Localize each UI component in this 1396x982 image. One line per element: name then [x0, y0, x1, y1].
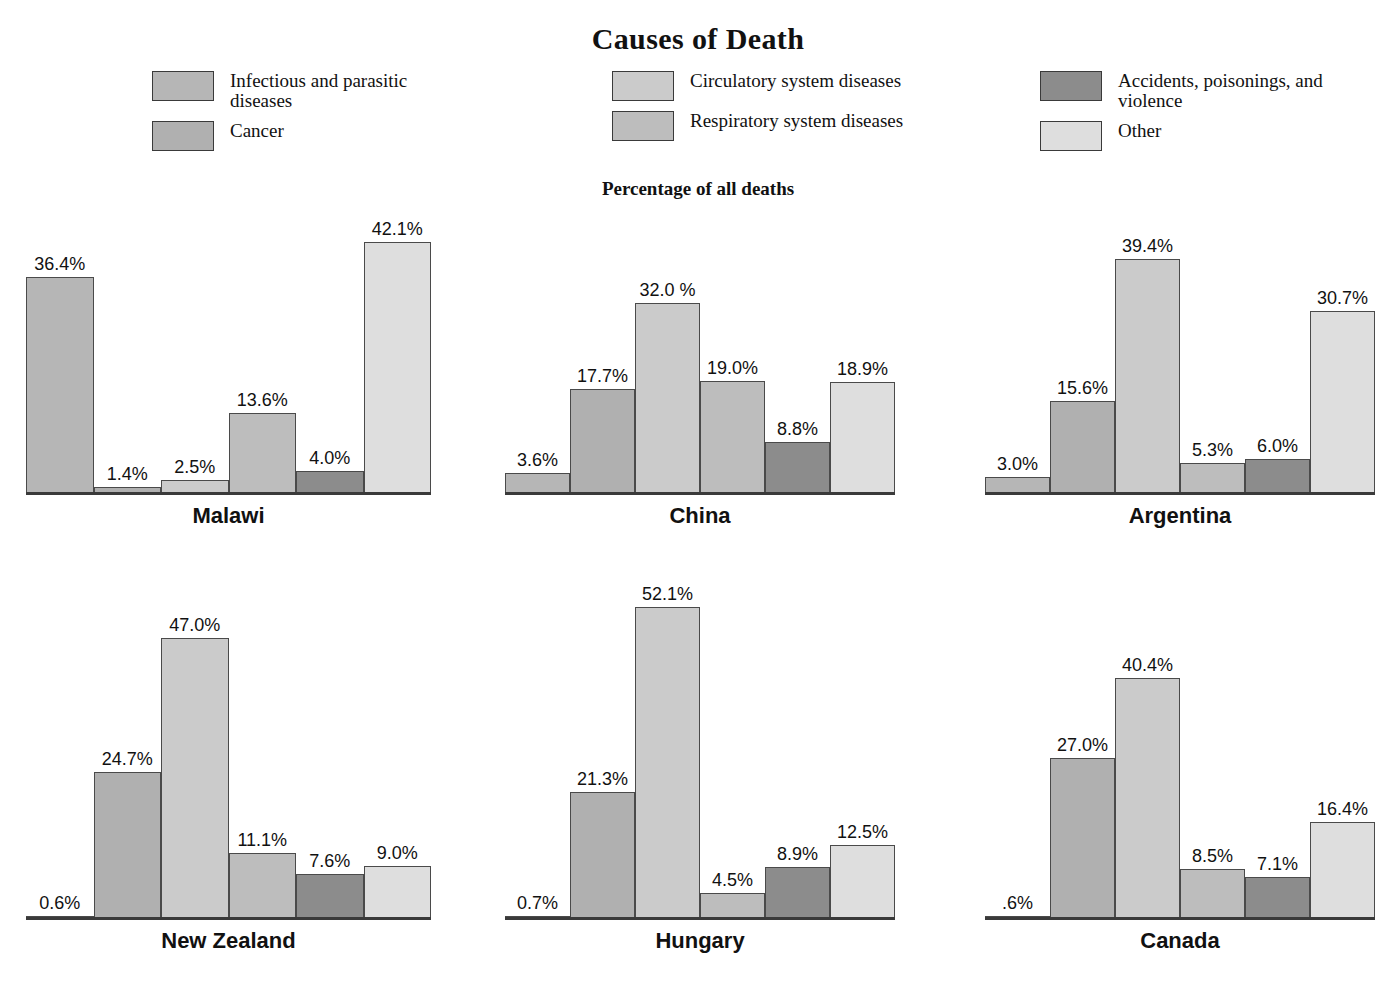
bar[interactable]	[1115, 678, 1180, 920]
bar[interactable]	[1050, 758, 1115, 920]
bar-slot: 36.4%	[26, 165, 94, 495]
bar-slot: 8.9%	[765, 590, 830, 920]
chart-panel-malawi: 36.4%1.4%2.5%13.6%4.0%42.1%Malawi	[26, 165, 431, 529]
bar-slot: 7.1%	[1245, 590, 1310, 920]
bar-slot: 1.4%	[94, 165, 162, 495]
bar[interactable]	[1050, 401, 1115, 495]
legend: Infectious and parasitic diseasesCancerC…	[0, 70, 1396, 165]
bar-value-label: 4.5%	[712, 871, 753, 890]
legend-swatch-icon	[152, 121, 214, 151]
bar-value-label: .6%	[1002, 894, 1033, 913]
bar[interactable]	[1115, 259, 1180, 495]
bar-slot: 42.1%	[364, 165, 432, 495]
legend-item[interactable]: Other	[1040, 120, 1360, 151]
bar-slot: 24.7%	[94, 590, 162, 920]
bar-slot: 21.3%	[570, 590, 635, 920]
panel-country-label: New Zealand	[26, 928, 431, 954]
x-axis-line	[985, 917, 1375, 920]
legend-swatch-icon	[152, 71, 214, 101]
bar-group: 36.4%1.4%2.5%13.6%4.0%42.1%	[26, 165, 431, 495]
bar-value-label: 21.3%	[577, 770, 628, 789]
bar-value-label: 16.4%	[1317, 800, 1368, 819]
bar-slot: 8.5%	[1180, 590, 1245, 920]
bar[interactable]	[26, 277, 94, 495]
bar-value-label: 3.0%	[997, 455, 1038, 474]
plot-area: 0.7%21.3%52.1%4.5%8.9%12.5%	[505, 590, 895, 920]
legend-item-label: Other	[1118, 120, 1161, 141]
legend-item-label: Accidents, poisonings, and violence	[1118, 70, 1360, 111]
legend-item[interactable]: Circulatory system diseases	[612, 70, 962, 101]
x-axis-line	[505, 917, 895, 920]
bar-value-label: 15.6%	[1057, 379, 1108, 398]
plot-area: 36.4%1.4%2.5%13.6%4.0%42.1%	[26, 165, 431, 495]
bar[interactable]	[161, 638, 229, 920]
panel-country-label: Canada	[985, 928, 1375, 954]
bar[interactable]	[765, 867, 830, 920]
bar[interactable]	[635, 607, 700, 920]
bar[interactable]	[94, 772, 162, 920]
bar-value-label: 2.5%	[174, 458, 215, 477]
x-axis-line	[26, 917, 431, 920]
bar[interactable]	[1310, 311, 1375, 495]
bar-value-label: 24.7%	[102, 750, 153, 769]
bar[interactable]	[1180, 463, 1245, 495]
bar[interactable]	[765, 442, 830, 495]
x-axis-line	[985, 492, 1375, 495]
legend-item[interactable]: Infectious and parasitic diseases	[152, 70, 452, 111]
bar-value-label: 17.7%	[577, 367, 628, 386]
bar-value-label: 27.0%	[1057, 736, 1108, 755]
bar-slot: 6.0%	[1245, 165, 1310, 495]
bar[interactable]	[296, 874, 364, 920]
bar[interactable]	[1245, 877, 1310, 920]
bar-value-label: 13.6%	[237, 391, 288, 410]
bar[interactable]	[570, 792, 635, 920]
bar-slot: 4.0%	[296, 165, 364, 495]
bar-slot: 7.6%	[296, 590, 364, 920]
chart-panel-hungary: 0.7%21.3%52.1%4.5%8.9%12.5%Hungary	[505, 590, 895, 954]
legend-item-label: Infectious and parasitic diseases	[230, 70, 452, 111]
legend-group-2: Accidents, poisonings, and violenceOther	[1040, 70, 1360, 160]
bar[interactable]	[1245, 459, 1310, 495]
chart-panel-china: 3.6%17.7%32.0 %19.0%8.8%18.9%China	[505, 165, 895, 529]
x-axis-line	[505, 492, 895, 495]
chart-panel-new-zealand: 0.6%24.7%47.0%11.1%7.6%9.0%New Zealand	[26, 590, 431, 954]
bar[interactable]	[229, 853, 297, 920]
bar[interactable]	[830, 845, 895, 920]
bar-value-label: 8.5%	[1192, 847, 1233, 866]
bar[interactable]	[229, 413, 297, 495]
legend-group-0: Infectious and parasitic diseasesCancer	[152, 70, 452, 160]
bar-slot: 18.9%	[830, 165, 895, 495]
bar[interactable]	[570, 389, 635, 495]
bar-group: 3.6%17.7%32.0 %19.0%8.8%18.9%	[505, 165, 895, 495]
bar[interactable]	[700, 381, 765, 495]
bar[interactable]	[1180, 869, 1245, 920]
plot-area: 3.6%17.7%32.0 %19.0%8.8%18.9%	[505, 165, 895, 495]
bar[interactable]	[830, 382, 895, 495]
legend-item[interactable]: Respiratory system diseases	[612, 110, 962, 141]
panel-country-label: Argentina	[985, 503, 1375, 529]
bar-value-label: 8.9%	[777, 845, 818, 864]
bar[interactable]	[1310, 822, 1375, 920]
bar-value-label: 3.6%	[517, 451, 558, 470]
bar[interactable]	[635, 303, 700, 495]
bar-value-label: 52.1%	[642, 585, 693, 604]
bar-slot: 16.4%	[1310, 590, 1375, 920]
bar[interactable]	[364, 242, 432, 495]
legend-item[interactable]: Cancer	[152, 120, 452, 151]
legend-item[interactable]: Accidents, poisonings, and violence	[1040, 70, 1360, 111]
bar-slot: 11.1%	[229, 590, 297, 920]
bar-slot: .6%	[985, 590, 1050, 920]
bar-slot: 30.7%	[1310, 165, 1375, 495]
bar-value-label: 5.3%	[1192, 441, 1233, 460]
plot-area: 3.0%15.6%39.4%5.3%6.0%30.7%	[985, 165, 1375, 495]
bar-value-label: 32.0 %	[639, 281, 695, 300]
bar[interactable]	[364, 866, 432, 920]
bar-slot: 32.0 %	[635, 165, 700, 495]
bar-value-label: 40.4%	[1122, 656, 1173, 675]
legend-item-label: Respiratory system diseases	[690, 110, 903, 131]
bar[interactable]	[700, 893, 765, 920]
bar-group: .6%27.0%40.4%8.5%7.1%16.4%	[985, 590, 1375, 920]
bar-slot: 27.0%	[1050, 590, 1115, 920]
bar-slot: 19.0%	[700, 165, 765, 495]
bar-group: 0.7%21.3%52.1%4.5%8.9%12.5%	[505, 590, 895, 920]
